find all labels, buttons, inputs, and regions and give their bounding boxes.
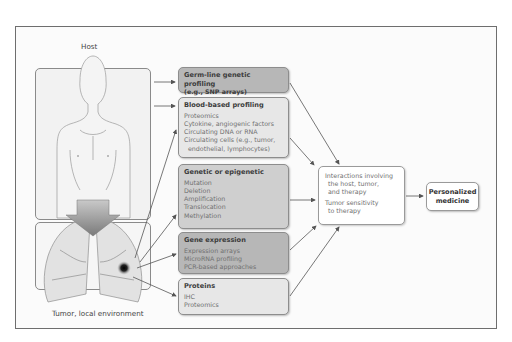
box-title: Gene expression — [184, 236, 284, 245]
outcome-line: Personalized — [427, 188, 478, 197]
sensitivity-line: Tumor sensitivity — [325, 199, 400, 207]
box-item: PCR-based approaches — [184, 263, 284, 271]
box-item: Amplification — [184, 195, 284, 203]
arrow-proteins-interactions — [290, 227, 339, 296]
genetic-epigenetic-box: Genetic or epigenetic Mutation Deletion … — [178, 164, 289, 229]
germline-profiling-box: Germ-line genetic profiling (e.g., SNP a… — [178, 67, 289, 93]
box-item: Proteomics — [184, 301, 284, 309]
box-item: Methylation — [184, 212, 284, 220]
arrow-germline-interactions — [290, 83, 339, 164]
box-title: Proteins — [184, 282, 284, 291]
box-item: endothelial, lymphocytes) — [184, 145, 284, 153]
box-item: Deletion — [184, 187, 284, 195]
box-item: Expression arrays — [184, 247, 284, 255]
box-item: Mutation — [184, 179, 284, 187]
gene-expression-box: Gene expression Expression arrays MicroR… — [178, 232, 289, 274]
human-figure-icon — [57, 56, 130, 218]
tumor-spot-icon — [117, 261, 131, 275]
interactions-line: and therapy — [325, 188, 400, 196]
box-item: Proteomics — [184, 112, 284, 120]
blood-profiling-box: Blood-based profiling Proteomics Cytokin… — [178, 97, 289, 158]
tumor-environment-label: Tumor, local environment — [52, 309, 144, 318]
box-item: MicroRNA profiling — [184, 255, 284, 263]
interactions-line: Interactions involving — [325, 172, 400, 180]
interactions-box: Interactions involving the host, tumor, … — [318, 166, 405, 225]
personalized-medicine-box: Personalized medicine — [426, 182, 479, 211]
box-item: (e.g., SNP arrays) — [184, 88, 284, 96]
arrow-tumor-genetic — [140, 215, 176, 262]
sensitivity-line: to therapy — [325, 207, 400, 215]
box-title: Germ-line genetic profiling — [184, 71, 284, 88]
box-item: Circulating DNA or RNA — [184, 128, 284, 136]
arrow-blood-interactions — [290, 138, 314, 165]
proteins-box: Proteins IHC Proteomics — [178, 278, 289, 315]
arrow-tumor-expression — [137, 254, 176, 268]
box-item: IHC — [184, 293, 284, 301]
outcome-line: medicine — [427, 197, 478, 206]
box-item: Circulating cells (e.g., tumor, — [184, 136, 284, 144]
box-title: Blood-based profiling — [184, 101, 284, 110]
box-title: Genetic or epigenetic — [184, 168, 284, 177]
interactions-line: the host, tumor, — [325, 180, 400, 188]
arrow-expression-interactions — [290, 226, 316, 250]
box-item: Cytokine, angiogenic factors — [184, 120, 284, 128]
arrow-tumor-blood — [135, 130, 176, 258]
box-item: Translocation — [184, 203, 284, 211]
